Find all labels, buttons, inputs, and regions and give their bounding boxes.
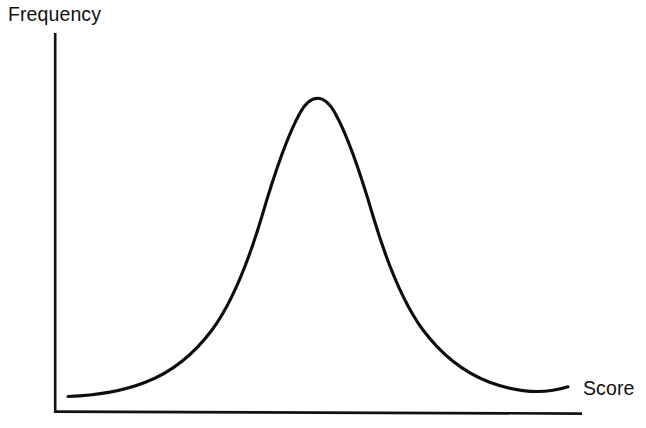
distribution-chart-figure: Frequency Score	[0, 0, 646, 428]
y-axis-label: Frequency	[8, 3, 101, 25]
normal-distribution-curve	[68, 98, 568, 396]
x-axis-label: Score	[583, 377, 634, 399]
chart-canvas: Frequency Score	[0, 0, 646, 428]
x-axis-line	[54, 412, 582, 414]
